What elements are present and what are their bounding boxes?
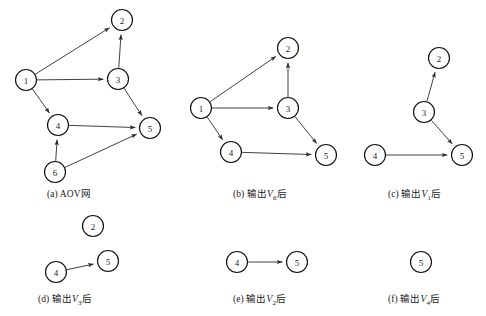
caption-d: (d) 输出V3后 — [38, 291, 92, 307]
node-label-3: 3 — [116, 75, 121, 85]
edge-1-to-2 — [210, 56, 276, 101]
node-label-4: 4 — [373, 151, 378, 161]
graph-diagram-canvas: 123456123452345245455 — [0, 0, 486, 316]
node-label-5: 5 — [106, 257, 111, 267]
edge-4-to-5 — [242, 152, 311, 154]
panel-c: 2345 — [365, 48, 473, 166]
node-label-4: 4 — [56, 121, 61, 131]
edge-1-to-2 — [35, 28, 109, 74]
caption-c: (c) 输出V1后 — [388, 186, 441, 202]
edge-6-to-5 — [65, 134, 137, 167]
edge-4-to-5 — [69, 125, 135, 127]
caption-f: (f) 输出V4后 — [388, 291, 440, 307]
edge-4-to-5 — [67, 264, 94, 270]
node-label-2: 2 — [91, 222, 96, 232]
edge-3-to-5 — [295, 117, 317, 144]
panel-a: 123456 — [16, 10, 161, 183]
edge-3-to-5 — [124, 88, 142, 115]
node-label-1: 1 — [199, 104, 204, 114]
panel-e: 45 — [227, 252, 308, 273]
edge-3-to-2 — [427, 72, 435, 101]
node-label-5: 5 — [148, 124, 153, 134]
edge-1-to-3 — [37, 79, 103, 80]
caption-e: (e) 输出V2后 — [233, 291, 286, 307]
node-label-3: 3 — [286, 104, 291, 114]
panel-b: 12345 — [191, 38, 337, 166]
node-label-1: 1 — [24, 76, 29, 86]
edge-1-to-4 — [32, 89, 49, 113]
node-label-4: 4 — [54, 268, 59, 278]
node-label-4: 4 — [229, 148, 234, 158]
node-label-5: 5 — [295, 258, 300, 268]
node-label-2: 2 — [120, 16, 125, 26]
node-label-5: 5 — [419, 258, 424, 268]
panel-d: 245 — [46, 216, 119, 283]
edge-3-to-5 — [431, 120, 452, 144]
edge-3-to-2 — [119, 35, 121, 68]
edge-1-to-4 — [207, 117, 222, 140]
caption-b: (b) 输出V6后 — [233, 186, 287, 202]
node-label-6: 6 — [53, 168, 58, 178]
caption-a: (a) AOV网 — [47, 186, 91, 200]
node-label-3: 3 — [422, 108, 427, 118]
node-label-5: 5 — [460, 151, 465, 161]
node-label-2: 2 — [286, 44, 291, 54]
node-label-4: 4 — [235, 258, 240, 268]
node-label-2: 2 — [437, 54, 442, 64]
node-label-5: 5 — [324, 151, 329, 161]
panel-f: 5 — [411, 252, 432, 273]
figure-root: 123456123452345245455 (a) AOV网(b) 输出V6后(… — [0, 0, 486, 316]
edge-6-to-4 — [56, 140, 57, 161]
